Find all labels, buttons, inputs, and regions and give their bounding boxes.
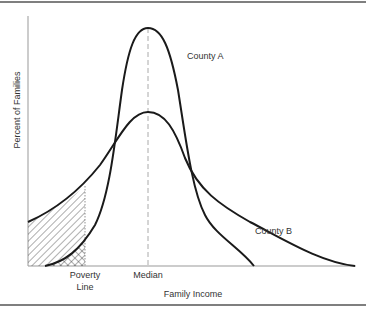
county-a-label: County A: [187, 51, 224, 61]
y-axis-label: Percent of Families: [12, 71, 22, 149]
poverty-shading: [28, 186, 85, 266]
poverty-label-1: Poverty: [70, 270, 101, 280]
x-axis-label: Family Income: [164, 289, 223, 299]
median-label: Median: [133, 270, 163, 280]
county-b-label: County B: [255, 226, 292, 236]
poverty-label-2: Line: [76, 282, 93, 292]
income-distribution-chart: County A County B Median Poverty Line Fa…: [0, 0, 366, 316]
